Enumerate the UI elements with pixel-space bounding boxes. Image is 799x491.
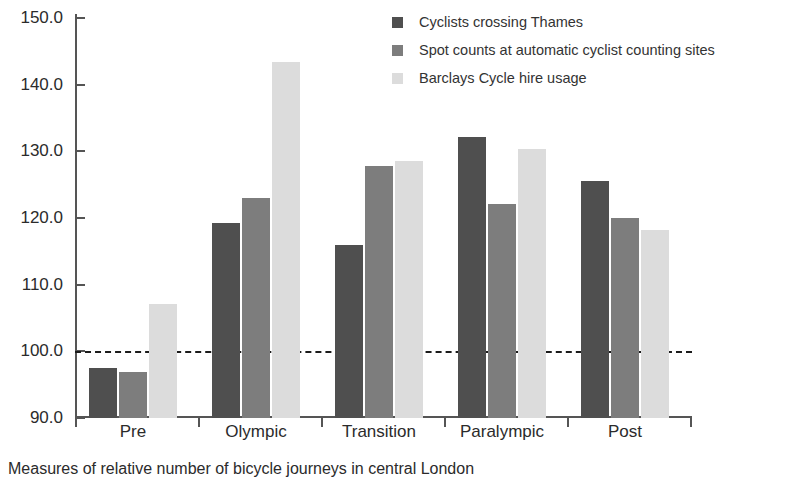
chart-caption: Measures of relative number of bicycle j… [8, 460, 474, 478]
bar [212, 223, 240, 418]
bar [641, 230, 669, 418]
y-axis-tick-label: 120.0 [20, 208, 63, 228]
y-axis-tick-label: 140.0 [20, 75, 63, 95]
bar [272, 62, 300, 418]
x-axis-tick [690, 418, 692, 427]
plot-area: 150.0140.0130.0120.0110.0100.090.0 PreOl… [75, 18, 690, 418]
x-axis-tick [567, 418, 569, 427]
bar [242, 198, 270, 418]
x-axis-tick-label: Olympic [225, 422, 286, 442]
y-axis-tick-label: 150.0 [20, 8, 63, 28]
bar [458, 137, 486, 418]
x-axis-tick [321, 418, 323, 427]
y-axis-tick-label: 130.0 [20, 141, 63, 161]
x-axis-tick [75, 418, 77, 427]
x-axis-tick-label: Transition [342, 422, 416, 442]
bar [581, 181, 609, 418]
bar [119, 372, 147, 418]
bar [89, 368, 117, 418]
y-axis-tick-label: 100.0 [20, 341, 63, 361]
bar [488, 204, 516, 418]
y-axis-tick-label: 90.0 [30, 408, 63, 428]
bar-series-container [75, 18, 690, 418]
bar [518, 149, 546, 418]
bar [335, 245, 363, 418]
bar-chart: Cyclists crossing Thames Spot counts at … [0, 0, 799, 491]
bar [365, 166, 393, 418]
bar [611, 218, 639, 418]
x-axis-tick-label: Pre [120, 422, 146, 442]
x-axis-tick-label: Post [608, 422, 642, 442]
bar [149, 304, 177, 418]
y-axis-tick-label: 110.0 [22, 275, 63, 295]
bar [395, 161, 423, 418]
x-axis-tick [198, 418, 200, 427]
x-axis-tick [444, 418, 446, 427]
x-axis-tick-label: Paralympic [460, 422, 544, 442]
